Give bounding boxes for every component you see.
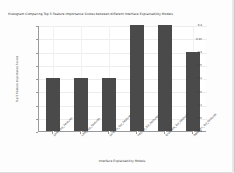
y-axis-title: Top 5 Feature Importance Scores	[13, 26, 21, 132]
y-tick-label: 0.35	[188, 38, 202, 41]
y-tick-mark	[36, 92, 38, 93]
y-tick-mark	[36, 79, 38, 80]
y-tick-label: 0.05	[188, 117, 202, 120]
y-tick-mark	[36, 106, 38, 107]
plot-wrap: 0.00.050.10.150.20.250.30.350.4 SHAP_Top…	[38, 26, 206, 132]
bar	[46, 78, 61, 131]
y-tick-mark	[36, 66, 38, 67]
y-tick-label: 0.2	[188, 77, 202, 80]
y-axis-title-text: Top 5 Feature Importance Scores	[15, 56, 19, 103]
y-tick-mark	[36, 119, 38, 120]
y-tick-label: 0.1	[188, 104, 202, 107]
y-tick-label: 0.3	[188, 51, 202, 54]
chart-title: Histogram Comparing Top 5 Feature Import…	[8, 12, 230, 16]
y-tick-mark	[36, 53, 38, 54]
x-axis-title: Interface Explainability Models	[38, 159, 206, 163]
y-tick-mark	[36, 39, 38, 40]
bar	[74, 78, 89, 131]
y-tick-mark	[36, 26, 38, 27]
y-tick-label: 0.4	[188, 24, 202, 27]
bar	[102, 78, 117, 131]
figure-right-edge	[232, 0, 234, 173]
y-tick-label: 0.25	[188, 64, 202, 67]
chart-screenshot: Histogram Comparing Top 5 Feature Import…	[0, 0, 235, 173]
y-tick-mark	[36, 132, 38, 133]
bar	[158, 25, 173, 131]
y-tick-label: 0.15	[188, 91, 202, 94]
